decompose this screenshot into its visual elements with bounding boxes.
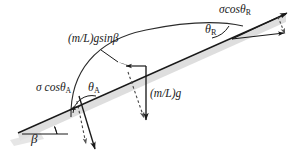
label-beta: β <box>31 132 37 145</box>
label-sigma-cos-theta-a: σ cosθA <box>36 82 71 95</box>
label-theta-r-sub: R <box>211 28 216 37</box>
label-sigma-cos-theta-r-sub: R <box>246 8 251 17</box>
physics-diagram-inclined-plane: σ cosθA σcosθR θA θR (m/L)gsinβ (m/L)g β <box>0 0 293 156</box>
label-sigma-cos-theta-r-text: σcosθ <box>219 3 246 15</box>
label-theta-a: θA <box>88 81 100 95</box>
label-sigma-cos-theta-a-sub: A <box>66 86 72 95</box>
label-theta-r: θR <box>205 23 216 37</box>
label-mlg-sin-beta: (m/L)gsinβ <box>68 33 118 45</box>
label-mlg: (m/L)g <box>150 88 181 100</box>
diagram-canvas <box>0 0 293 156</box>
label-sigma-cos-theta-r: σcosθR <box>219 4 251 17</box>
beta-angle-tick <box>55 127 57 134</box>
label-theta-a-sub: A <box>94 86 100 95</box>
label-sigma-cos-theta-a-text: σ cosθ <box>36 81 66 93</box>
